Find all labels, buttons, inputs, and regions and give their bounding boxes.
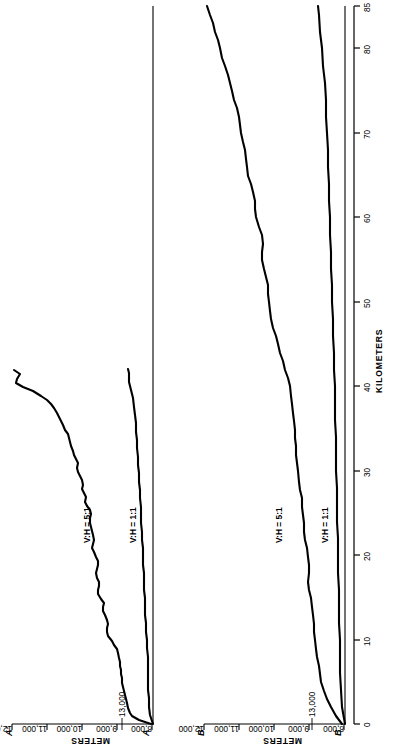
panel-b-profile-1to1: [318, 6, 345, 724]
panel-a-annotation-13000: 13,000: [117, 692, 127, 717]
panel-a-yticklabel-10000: 10,000: [57, 724, 82, 734]
panel-b-yticklabel-9000: 9,000: [288, 724, 309, 734]
panel-a-yticklabel-12000: 12,000: [0, 724, 12, 734]
panel-a-svg: [10, 0, 190, 748]
km-ticklabel-70: 70: [362, 130, 372, 139]
panel-a-profile-5to1: [14, 370, 151, 724]
panel-b-yticklabel-8000: 8,000: [323, 724, 344, 734]
panel-b-profile-5to1: [207, 6, 342, 724]
x-axis-title: KILOMETERS: [374, 329, 384, 393]
panel-b-vh-5to1-label: V:H = 5:1: [274, 507, 284, 543]
km-ticklabel-20: 20: [362, 552, 372, 561]
km-ticklabel-85: 85: [362, 3, 372, 12]
panel-a-y-axis-title: METERS: [71, 736, 110, 746]
panel-b-yticklabel-11000: 11,000: [214, 724, 239, 734]
panel-a-yticklabel-8000: 8,000: [131, 724, 152, 734]
panel-b-yticklabel-10000: 10,000: [249, 724, 274, 734]
panel-b-vh-1to1-label: V:H = 1:1: [320, 507, 330, 543]
panel-a-yticklabel-11000: 11,000: [22, 724, 47, 734]
panel-a-profile-1to1: [128, 369, 153, 724]
panel-b-y-axis-title: METERS: [263, 736, 302, 746]
km-ticklabel-60: 60: [362, 214, 372, 223]
panel-a-vh-1to1-label: V:H = 1:1: [128, 507, 138, 543]
panel-a-vh-5to1-label: V:H = 5:1: [82, 507, 92, 543]
cross-section-panel-a: A A' 12,000 11,000 10,000 9,000 8,000 ME…: [10, 0, 190, 748]
figure-rotated-canvas: A A' 12,000 11,000 10,000 9,000 8,000 ME…: [0, 0, 405, 748]
panel-b-annotation-13000: 13,000: [307, 692, 317, 717]
panel-b-yticklabel-12000: 12,000: [179, 724, 204, 734]
figure-root: A A' 12,000 11,000 10,000 9,000 8,000 ME…: [0, 0, 405, 748]
km-ticklabel-50: 50: [362, 299, 372, 308]
km-ticklabel-40: 40: [362, 383, 372, 392]
km-ticklabel-10: 10: [362, 637, 372, 646]
panel-b-plot: [202, 0, 382, 748]
panel-b-svg: [202, 0, 382, 748]
panel-a-plot: [10, 0, 190, 748]
km-ticklabel-80: 80: [362, 45, 372, 54]
panel-a-yticklabel-9000: 9,000: [96, 724, 117, 734]
km-ticklabel-30: 30: [362, 468, 372, 477]
cross-section-panel-b: B B' 12,000 11,000 10,000 9,000 8,000 ME…: [202, 0, 382, 748]
km-ticklabel-0: 0: [362, 722, 372, 727]
